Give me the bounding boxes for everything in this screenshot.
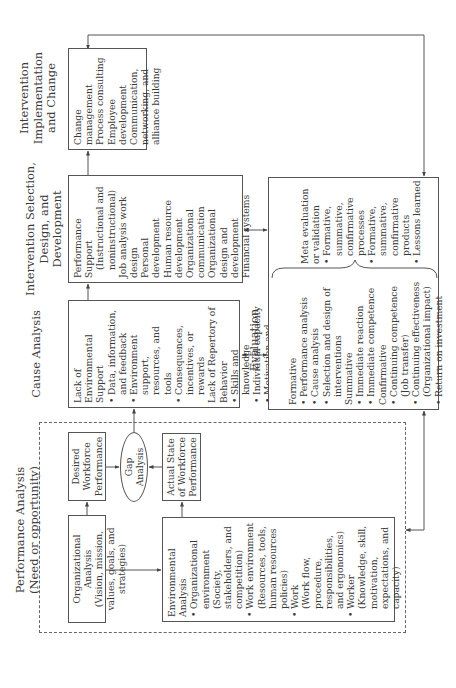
performance-improvement-model-diagram: Performance Analysis (Need or opportunit… [0, 0, 456, 688]
evaluation-brace [0, 0, 456, 688]
